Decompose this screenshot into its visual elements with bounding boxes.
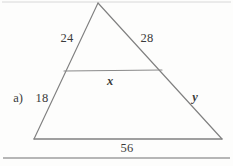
geometry-problem-figure: a) 24 28 x 18 y 56 bbox=[0, 0, 233, 166]
triangle-midsegment bbox=[64, 70, 162, 71]
unknown-label-y: y bbox=[192, 91, 198, 104]
side-length-label-right-upper: 28 bbox=[141, 32, 154, 45]
side-length-label-left-upper: 24 bbox=[61, 32, 74, 45]
part-label-a: a) bbox=[13, 92, 23, 105]
triangle-diagram bbox=[0, 0, 233, 166]
unknown-label-x: x bbox=[107, 75, 113, 88]
side-length-label-left-lower: 18 bbox=[36, 92, 49, 105]
side-length-label-base: 56 bbox=[121, 142, 134, 155]
